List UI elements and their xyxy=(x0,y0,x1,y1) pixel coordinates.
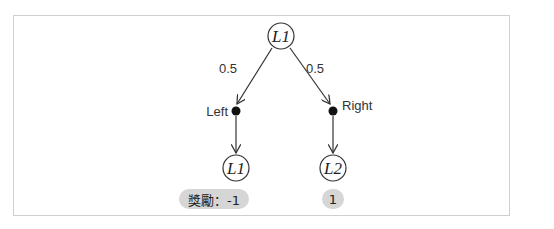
state-node-right-label: L2 xyxy=(323,159,342,178)
state-node-root-label: L1 xyxy=(271,27,290,46)
action-label-right: Right xyxy=(342,98,373,113)
edge-label-right-prob: 0.5 xyxy=(306,61,324,76)
edge-root-right xyxy=(290,48,330,104)
edge-root-left xyxy=(237,48,272,104)
reward-badge-right: 1 xyxy=(322,189,344,209)
action-label-left: Left xyxy=(206,104,228,119)
mdp-tree-diagram: 0.5 0.5 Left Right L1 L1 L2 xyxy=(0,0,554,229)
action-dot-right xyxy=(329,107,338,116)
reward-badge-left: 獎勵：-1 xyxy=(179,189,249,209)
edge-label-left-prob: 0.5 xyxy=(219,61,237,76)
action-dot-left xyxy=(232,107,241,116)
state-node-left-label: L1 xyxy=(226,159,245,178)
